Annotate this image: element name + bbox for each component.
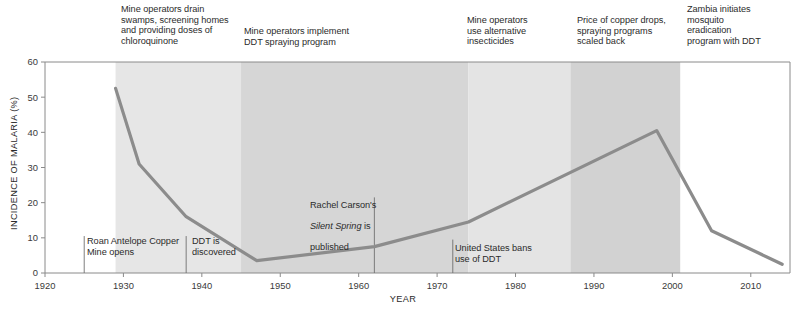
era-label-chloroquinone: Mine operators drain swamps, screening h… bbox=[121, 4, 243, 46]
carson-line-2-tail: is bbox=[361, 221, 370, 231]
x-tick-label: 1950 bbox=[270, 280, 291, 291]
y-axis-title: INCIDENCE OF MALARIA (%) bbox=[9, 97, 19, 230]
y-tick-label: 40 bbox=[28, 127, 38, 138]
y-tick-label: 10 bbox=[28, 232, 38, 243]
event-label-us-bans-ddt: United States bans use of DDT bbox=[455, 243, 559, 264]
malaria-incidence-chart: 0102030405060 19201930194019501960197019… bbox=[0, 0, 806, 314]
y-tick-label: 0 bbox=[33, 267, 38, 278]
x-tick-label: 2000 bbox=[662, 280, 683, 291]
era-label-ddt-spraying: Mine operators implement DDT spraying pr… bbox=[244, 26, 374, 47]
event-label-ddt-discovered: DDT is discovered bbox=[192, 236, 262, 257]
carson-book-title: Silent Spring bbox=[310, 221, 361, 231]
x-axis-title: YEAR bbox=[390, 294, 416, 304]
carson-line-1: Rachel Carson's bbox=[310, 200, 376, 210]
event-label-roan-antelope-mine: Roan Antelope Copper Mine opens bbox=[87, 236, 199, 257]
x-tick-label: 1990 bbox=[584, 280, 605, 291]
x-tick-label: 1980 bbox=[505, 280, 526, 291]
x-tick-label: 1920 bbox=[35, 280, 56, 291]
x-tick-label: 1940 bbox=[191, 280, 212, 291]
x-tick-label: 1970 bbox=[427, 280, 448, 291]
era-band-copper-price-drop-era bbox=[570, 62, 680, 273]
y-tick-label: 60 bbox=[28, 56, 38, 67]
x-axis-ticks: 1920193019401950196019701980199020002010 bbox=[35, 273, 762, 291]
x-tick-label: 2010 bbox=[740, 280, 761, 291]
y-tick-label: 50 bbox=[28, 92, 38, 103]
y-axis-ticks: 0102030405060 bbox=[28, 56, 45, 278]
era-band-alternative-insecticides-era bbox=[468, 62, 570, 273]
era-label-zambia-eradication: Zambia initiates mosquito eradication pr… bbox=[687, 4, 787, 46]
x-tick-label: 1930 bbox=[113, 280, 134, 291]
event-label-silent-spring: Rachel Carson's Silent Spring is publish… bbox=[310, 189, 396, 253]
carson-line-3: published bbox=[310, 242, 349, 252]
era-label-alternative-insecticides: Mine operators use alternative insectici… bbox=[467, 15, 563, 47]
x-tick-label: 1960 bbox=[348, 280, 369, 291]
chart-canvas: 0102030405060 19201930194019501960197019… bbox=[0, 0, 806, 314]
y-tick-label: 20 bbox=[28, 197, 38, 208]
era-label-copper-price-drop: Price of copper drops, spraying programs… bbox=[577, 15, 687, 47]
y-tick-label: 30 bbox=[28, 162, 38, 173]
